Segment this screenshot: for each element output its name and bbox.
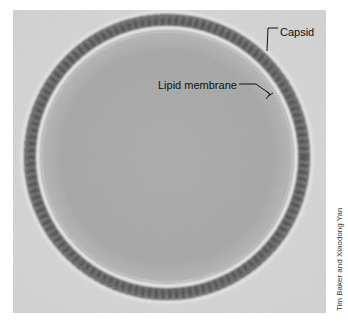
lipid-membrane-label: Lipid membrane	[158, 80, 237, 91]
micrograph-panel: Capsid Lipid membrane	[13, 10, 326, 313]
capsid-label: Capsid	[280, 27, 314, 38]
virus-particle-image	[13, 10, 326, 313]
image-credit: Tim Baker and Xiaodong Yan	[336, 208, 344, 311]
